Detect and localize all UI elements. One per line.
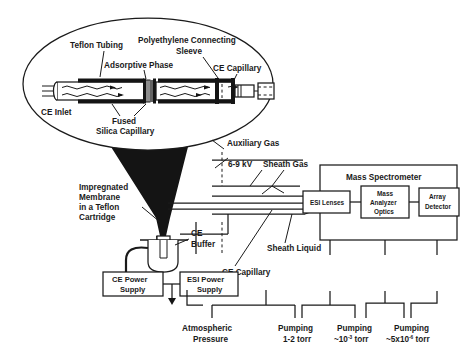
ce-power-supply-line1: CE Power [112, 275, 147, 284]
label-teflon-tubing: Teflon Tubing [70, 41, 123, 50]
stage-pump3-line1: Pumping [394, 324, 429, 333]
analyzer-line1: Mass [377, 190, 393, 197]
ce-power-supply: CE Power Supply [103, 272, 163, 296]
adsorptive-phase-junction [143, 79, 156, 104]
stage-pump2-line1: Pumping [337, 324, 372, 333]
liquid-labels: Sheath Liquid CE Capillary [222, 210, 321, 277]
impregnated-line2: Membrane [79, 193, 120, 202]
label-voltage: 6-9 kV [228, 160, 253, 169]
stage-pump2-line2: ~10-3 torr [334, 335, 369, 344]
label-ce-inlet: CE Inlet [41, 108, 72, 117]
stage-pump1-line1: Pumping [278, 324, 313, 333]
esi-lenses-label: ESI Lenses [310, 199, 345, 206]
electrospray-cone [106, 139, 190, 245]
ground-connection [163, 284, 180, 305]
ce-buffer-vial [126, 236, 188, 272]
label-fused-line1: Fused [112, 117, 136, 126]
esi-power-supply-line2: Supply [197, 285, 223, 294]
stage-atmospheric-line2: Pressure [193, 335, 228, 344]
stage-pump3-value-pre: ~5x10 [386, 335, 409, 344]
pressure-stage-labels: Atmospheric Pressure Pumping 1-2 torr Pu… [182, 324, 430, 344]
stage-pump1-line2: 1-2 torr [283, 335, 312, 344]
stage-pump2-unit: torr [352, 335, 369, 344]
esi-power-supply-line1: ESI Power [187, 275, 224, 284]
ce-buffer-line2: Buffer [191, 240, 216, 249]
label-sheath-gas: Sheath Gas [263, 160, 308, 169]
mass-spectrometer: Mass Spectrometer ESI Lenses Mass Analyz… [303, 165, 459, 240]
label-fused-silica-capillary: Silica Capillary [96, 127, 155, 136]
stage-atmospheric-line1: Atmospheric [182, 324, 232, 333]
ce-power-supply-line2: Supply [120, 285, 146, 294]
esi-power-supply: ESI Power Supply [180, 272, 238, 296]
label-adsorptive-phase: Adsorptive Phase [104, 61, 174, 70]
mass-spectrometer-title: Mass Spectrometer [346, 173, 422, 182]
label-polyethylene-sleeve-line2: Sleeve [176, 47, 202, 56]
stage-pump3-line2: ~5x10-6 torr [386, 335, 430, 344]
detector-line1: Array [429, 193, 446, 201]
label-polyethylene-sleeve-line1: Polyethylene Connecting [138, 36, 236, 45]
analyzer-line3: Optics [374, 208, 394, 216]
impregnated-line1: Impregnated [79, 183, 128, 192]
analyzer-line2: Analyzer [370, 199, 397, 207]
detector-line2: Detector [425, 203, 451, 210]
impregnated-line3: in a Teflon [79, 203, 119, 212]
label-inset-ce-capillary: CE Capillary [213, 64, 262, 73]
stage-pump3-unit: torr [413, 335, 430, 344]
label-sheath-liquid: Sheath Liquid [267, 244, 321, 253]
ce-esi-ms-diagram: Teflon Tubing Adsorptive Phase Polyethyl… [0, 0, 466, 357]
stage-pump2-value-pre: ~10 [334, 335, 348, 344]
label-auxiliary-gas: Auxiliary Gas [227, 139, 280, 148]
ce-capillary-outlet [228, 83, 274, 99]
impregnated-line4: Cartridge [79, 213, 116, 222]
